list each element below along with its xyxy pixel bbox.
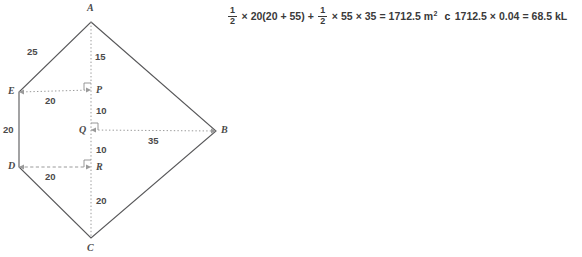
geometry-figure-panel: A B C D E P Q R 25 15 20 10 20 35 10 20 … [0,0,260,257]
measure-label-RC: 20 [96,196,107,206]
arrowhead-DR-left [19,165,24,170]
vertex-label-D: D [8,161,15,171]
vertex-label-E: E [8,86,15,96]
measure-label-QR: 10 [96,145,107,155]
vertex-label-A: A [87,3,94,13]
area-result: 1712.5 m [389,11,433,22]
vertex-label-B: B [221,125,228,135]
multiply-sign-2: × [332,11,338,22]
term-55: 55 [341,11,353,22]
measure-label-PQ: 10 [96,106,107,116]
vertex-label-C: C [87,243,94,253]
equals-sign-1: = [379,11,385,22]
area-unit-exponent: 2 [433,10,437,17]
fraction-numerator: 1 [318,6,327,16]
rate-value: 0.04 [499,11,519,22]
guide-line-QB [91,130,216,131]
point-label-R: R [96,162,103,172]
point-label-Q: Q [79,125,86,135]
part-label-c: c [444,11,450,22]
area-calculation-line: 1 2 × 20(20 + 55) + 1 2 × 55 × 35 = 1712… [226,6,578,26]
volume-result: 68.5 kL [532,11,568,22]
equals-sign-2: = [522,11,528,22]
measure-label-DR: 20 [45,172,56,182]
arrowhead-EP-right [86,88,91,93]
multiply-sign-4: × [490,11,496,22]
fraction-one-half-first: 1 2 [228,6,237,26]
multiply-sign-1: × [242,11,248,22]
arrowhead-QB-left [91,128,96,133]
measure-label-AE: 25 [27,47,38,57]
point-label-P: P [96,85,102,95]
measure-label-QB: 35 [148,136,159,146]
fraction-denominator: 2 [228,17,237,27]
plus-sign: + [308,11,314,22]
volume-area-value: 1712.5 [455,11,487,22]
fraction-denominator: 2 [318,17,327,27]
term-20-sum: 20(20 + 55) [251,11,305,22]
working-solution-panel: 1 2 × 20(20 + 55) + 1 2 × 55 × 35 = 1712… [226,6,578,36]
guide-line-EP [19,90,91,92]
fraction-one-half-second: 1 2 [318,6,327,26]
fraction-numerator: 1 [228,6,237,16]
measure-label-AP: 15 [95,52,106,62]
measure-label-EP: 20 [45,96,56,106]
arrowhead-DR-right [86,165,91,170]
multiply-sign-3: × [356,11,362,22]
term-35: 35 [365,11,377,22]
measure-label-ED: 20 [3,125,14,135]
